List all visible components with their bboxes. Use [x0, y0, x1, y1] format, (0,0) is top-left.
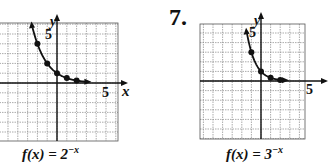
left-y-tick-label: 5 [45, 27, 52, 43]
problem-number: 7. [169, 4, 187, 31]
right-function-label: f(x) = 3−x [226, 144, 283, 163]
left-x-tick-label: 5 [102, 85, 109, 101]
left-x-axis-label: x [122, 83, 130, 100]
left-function-label: f(x) = 2−x [22, 144, 79, 163]
right-y-tick-label: 5 [249, 25, 256, 41]
right-x-tick-label: 5 [306, 82, 313, 98]
